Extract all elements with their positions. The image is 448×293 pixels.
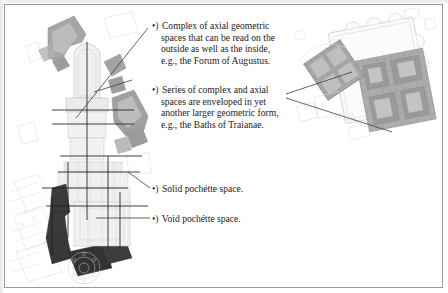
- left-plan-lower-court: [74, 202, 130, 246]
- callout-enveloped-spaces: •) Series of complex and axial spaces ar…: [152, 84, 280, 130]
- callout-1-text: •) Complex of axial geometric spaces tha…: [152, 20, 280, 66]
- callout-3-body: Solid pochétte space.: [162, 183, 243, 194]
- callout-2-body: Series of complex and axial spaces are e…: [161, 84, 279, 130]
- callout-1-body: Complex of axial geometric spaces that c…: [161, 20, 275, 66]
- callout-axial-geometric: •) Complex of axial geometric spaces tha…: [152, 20, 280, 66]
- callout-void-pochette: •) Void pochétte space.: [152, 213, 282, 225]
- callout-2-bullet: •): [152, 84, 159, 95]
- figure-page: •) Complex of axial geometric spaces tha…: [0, 0, 448, 293]
- right-plan-drawing: [292, 8, 442, 143]
- callout-4-text: •) Void pochétte space.: [152, 213, 282, 225]
- left-plan-street-grid: [10, 182, 44, 272]
- left-plan-solid-poche-right: [104, 54, 148, 154]
- callout-2-text: •) Series of complex and axial spaces ar…: [152, 84, 280, 130]
- scan-shading-left: [0, 0, 5, 293]
- left-plan-drawing: [8, 6, 158, 288]
- callout-3-text: •) Solid pochétte space.: [152, 183, 282, 195]
- callout-solid-pochette: •) Solid pochétte space.: [152, 183, 282, 195]
- right-plan-bath-block: [356, 48, 436, 132]
- callout-4-body: Void pochétte space.: [162, 213, 241, 224]
- scan-shading-top: [0, 0, 448, 5]
- callout-4-bullet: •): [152, 213, 159, 224]
- callout-3-bullet: •): [152, 183, 159, 194]
- callout-1-bullet: •): [152, 20, 159, 31]
